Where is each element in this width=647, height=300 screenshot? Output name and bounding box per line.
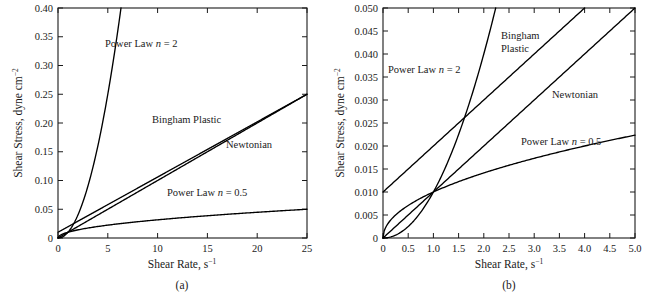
curve-power-law-n-2 — [383, 8, 496, 238]
ytick-label: 0.045 — [354, 26, 378, 37]
ytick-label: 0.15 — [35, 146, 53, 157]
ytick-label: 0.35 — [35, 31, 53, 42]
ytick-label: 0.010 — [354, 187, 378, 198]
panel-a-svg: 00.050.100.150.200.250.300.350.40 051015… — [0, 0, 324, 300]
ytick-label: 0.10 — [35, 175, 53, 186]
panel-b-label-newtonian: Newtonian — [552, 89, 599, 100]
xtick-label: 10 — [152, 243, 163, 254]
ytick-label: 0.025 — [354, 118, 378, 129]
ytick-label: 0.030 — [354, 95, 378, 106]
xtick-label: 5.0 — [628, 243, 641, 254]
panel-b-yaxis-title: Shear Stress, dyne cm−2 — [333, 68, 347, 178]
ytick-label: 0.015 — [354, 164, 378, 175]
panel-a-label-power-law-n05: Power Law n = 0.5 — [167, 187, 247, 198]
panel-a-label-power-law-n2: Power Law n = 2 — [105, 38, 177, 49]
ytick-label: 0.05 — [35, 204, 53, 215]
xtick-label: 20 — [252, 243, 263, 254]
xtick-label: 3.0 — [528, 243, 541, 254]
xtick-label: 5 — [105, 243, 110, 254]
xtick-label: 1.0 — [427, 243, 440, 254]
panel-a-label-bingham-plastic: Bingham Plastic — [152, 114, 221, 125]
panel-b-caption: (b) — [502, 279, 516, 292]
panel-b-label-bingham: Bingham — [501, 30, 540, 41]
xtick-label: 25 — [302, 243, 313, 254]
ytick-label: 0.25 — [35, 89, 53, 100]
ytick-label: 0.20 — [35, 118, 53, 129]
ytick-label: 0 — [373, 233, 378, 244]
ytick-label: 0.005 — [354, 210, 378, 221]
panel-a-xtick-labels: 0510152025 — [55, 243, 312, 254]
panel-a-ytick-labels: 00.050.100.150.200.250.300.350.40 — [35, 3, 53, 244]
panel-b-label-power-law-n05: Power Law n = 0.5 — [521, 136, 601, 147]
xtick-label: 4.5 — [603, 243, 616, 254]
xtick-label: 2.0 — [477, 243, 490, 254]
panel-b-xtick-labels: 00.51.01.52.02.53.03.54.04.55.0 — [380, 243, 641, 254]
curve-bingham-plastic — [383, 8, 585, 192]
ytick-label: 0.30 — [35, 60, 53, 71]
panel-b-svg: 00.0050.0100.0150.0200.0250.0300.0350.04… — [323, 0, 647, 300]
ytick-label: 0.035 — [354, 72, 378, 83]
panel-b-ytick-labels: 00.0050.0100.0150.0200.0250.0300.0350.04… — [354, 3, 378, 244]
panel-a-label-newtonian: Newtonian — [226, 139, 273, 150]
xtick-label: 0 — [380, 243, 385, 254]
ytick-label: 0.050 — [354, 3, 378, 14]
ytick-label: 0.040 — [354, 49, 378, 60]
ytick-label: 0.020 — [354, 141, 378, 152]
panel-b-xaxis-title: Shear Rate, s−1 — [475, 257, 544, 271]
panel-b-label-power-law-n2: Power Law n = 2 — [388, 64, 460, 75]
rheology-figure: 00.050.100.150.200.250.300.350.40 051015… — [0, 0, 647, 300]
ytick-label: 0.40 — [35, 3, 53, 14]
panel-a-caption: (a) — [176, 279, 189, 292]
panel-a-yaxis-title: Shear Stress, dyne cm−2 — [11, 68, 25, 178]
xtick-label: 2.5 — [502, 243, 515, 254]
xtick-label: 0 — [55, 243, 60, 254]
panel-b-label-plastic: Plastic — [501, 43, 529, 54]
xtick-label: 0.5 — [402, 243, 415, 254]
curve-power-law-n-0-5 — [58, 209, 307, 238]
xtick-label: 4.0 — [578, 243, 591, 254]
xtick-label: 3.5 — [553, 243, 566, 254]
curve-power-law-n-0-5 — [383, 135, 635, 238]
xtick-label: 1.5 — [452, 243, 465, 254]
xtick-label: 15 — [202, 243, 213, 254]
panel-a: 00.050.100.150.200.250.300.350.40 051015… — [0, 0, 324, 300]
panel-b: 00.0050.0100.0150.0200.0250.0300.0350.04… — [323, 0, 647, 300]
panel-a-xaxis-title: Shear Rate, s−1 — [148, 257, 217, 271]
ytick-label: 0 — [48, 233, 53, 244]
